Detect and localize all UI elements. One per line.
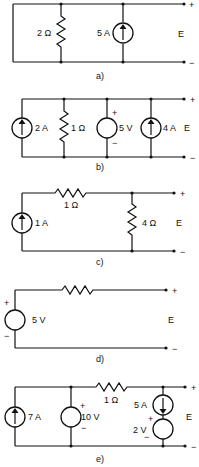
label-5v: 5 V (119, 123, 133, 133)
minus-terminal: − (191, 442, 196, 452)
current-source-1a (12, 213, 32, 233)
v-plus: + (112, 108, 117, 118)
minus-terminal: − (180, 247, 185, 257)
voltage-source-2v (153, 419, 173, 439)
resistor (15, 286, 166, 294)
voltage-source-5v (97, 118, 117, 138)
resistor-label: 2 Ω (37, 28, 52, 38)
caption-a: a) (96, 71, 104, 81)
circuit-d: + − 5 V E + − d) (4, 286, 177, 364)
plus-terminal: + (180, 189, 185, 199)
minus-terminal: − (172, 344, 177, 354)
output-label: E (178, 29, 184, 39)
plus-terminal: + (190, 95, 195, 105)
caption-c: c) (96, 257, 104, 267)
v2-plus: + (148, 414, 153, 424)
v1-minus: − (81, 423, 86, 433)
v-minus: − (112, 138, 117, 148)
label-1a: 1 A (35, 218, 48, 228)
current-source-5a (113, 23, 133, 43)
current-source-5a (153, 395, 173, 415)
label-1ohm: 1 Ω (104, 395, 119, 405)
output-label: E (184, 123, 190, 133)
current-source-7a (5, 407, 25, 427)
circuit-c: 1 Ω 1 A 4 Ω E + − c) (12, 189, 185, 267)
current-source-2a (12, 118, 32, 138)
label-2a: 2 A (35, 123, 48, 133)
plus-terminal: + (172, 286, 177, 296)
output-label: E (176, 218, 182, 228)
circuits-figure: 2 Ω 5 A E + − a) 2 A 1 Ω + − 5 V 4 A E + (0, 0, 199, 467)
plus-terminal: + (191, 383, 196, 393)
resistor-1ohm (15, 383, 185, 391)
minus-terminal: − (190, 153, 195, 163)
circuit-e: 7 A + 10 V − 1 Ω 5 A + 2 V − E + − e) (5, 383, 196, 464)
label-5v: 5 V (32, 315, 46, 325)
v2-minus: − (144, 432, 149, 442)
resistor-2ohm (57, 4, 65, 62)
label-10v: 10 V (81, 412, 100, 422)
plus-terminal: + (189, 0, 194, 10)
source-label: 5 A (97, 28, 110, 38)
label-1ohm: 1 Ω (71, 123, 86, 133)
current-source-4a (141, 118, 161, 138)
caption-e: e) (96, 454, 104, 464)
v-plus: + (4, 298, 9, 308)
label-7a: 7 A (28, 412, 41, 422)
caption-b: b) (96, 162, 104, 172)
voltage-source-5v (5, 310, 25, 330)
v1-plus: + (80, 401, 85, 411)
label-4a: 4 A (163, 123, 176, 133)
resistor-4ohm (128, 193, 136, 251)
resistor-1ohm (60, 99, 68, 157)
caption-d: d) (96, 354, 104, 364)
output-label: E (186, 412, 192, 422)
output-label: E (168, 315, 174, 325)
minus-terminal: − (189, 58, 194, 68)
label-5a: 5 A (134, 400, 147, 410)
circuit-a: 2 Ω 5 A E + − a) (13, 0, 194, 81)
v-minus: − (4, 331, 9, 341)
circuit-b: 2 A 1 Ω + − 5 V 4 A E + − b) (12, 95, 195, 172)
label-1ohm: 1 Ω (64, 200, 79, 210)
label-4ohm: 4 Ω (142, 218, 157, 228)
resistor-1ohm (22, 189, 174, 197)
voltage-source-10v (61, 407, 81, 427)
